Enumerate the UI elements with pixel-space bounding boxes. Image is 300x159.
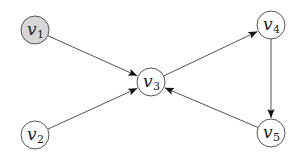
directed-graph: v1v2v3v4v5 — [0, 0, 300, 159]
edge-v1-to-v3 — [48, 36, 138, 76]
node-subscript: 5 — [273, 131, 280, 144]
node-v2: v2 — [21, 121, 49, 149]
node-label: v — [143, 71, 153, 91]
node-subscript: 2 — [37, 133, 44, 146]
node-v3: v3 — [137, 68, 165, 96]
nodes: v1v2v3v4v5 — [21, 11, 285, 149]
edge-v3-to-v4 — [164, 31, 258, 76]
edge-v5-to-v3 — [165, 88, 258, 128]
node-label: v — [27, 19, 37, 39]
node-label: v — [263, 122, 273, 142]
node-subscript: 4 — [273, 23, 280, 36]
node-v1: v1 — [21, 16, 49, 44]
node-subscript: 1 — [37, 28, 44, 41]
node-v5: v5 — [257, 119, 285, 147]
node-label: v — [263, 14, 273, 34]
edge-v2-to-v3 — [48, 88, 138, 129]
node-subscript: 3 — [153, 80, 160, 93]
node-label: v — [27, 124, 37, 144]
node-v4: v4 — [257, 11, 285, 39]
